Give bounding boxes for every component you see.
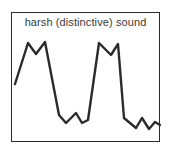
waveform-panel: harsh (distinctive) sound	[11, 12, 160, 142]
waveform-chart	[12, 13, 161, 143]
sound-waveform-figure: harsh (distinctive) sound	[0, 0, 171, 153]
waveform-trace	[15, 42, 160, 129]
